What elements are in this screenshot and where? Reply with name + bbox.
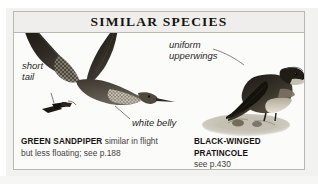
caption-black-winged-pratincole-line2: see p.430	[194, 159, 302, 170]
leader-line-white-belly	[115, 106, 130, 119]
leader-line-short-tail	[51, 93, 54, 103]
black-winged-pratincole-illustration	[202, 49, 304, 136]
page-margin-left	[0, 0, 6, 184]
green-sandpiper-illustration	[24, 33, 175, 119]
caption-area: GREEN SANDPIPER similar in flight but le…	[14, 136, 304, 170]
caption-black-winged-pratincole-species: BLACK-WINGED PRATINCOLE	[194, 137, 261, 158]
caption-black-winged-pratincole: BLACK-WINGED PRATINCOLE see p.430	[194, 136, 302, 170]
illustration-area: short tail white belly uniform upperwing…	[14, 33, 304, 138]
annotation-short-tail: short tail	[22, 60, 43, 82]
annotation-short-tail-line1: short	[22, 60, 43, 71]
short-tail-mark	[42, 101, 76, 113]
caption-green-sandpiper-note: similar in flight	[102, 136, 157, 146]
annotation-white-belly: white belly	[132, 117, 176, 128]
annotation-uniform-upperwings-line1: uniform	[169, 39, 201, 50]
page-title: SIMILAR SPECIES	[14, 14, 304, 30]
page-margin-bottom	[0, 176, 318, 184]
caption-green-sandpiper: GREEN SANDPIPER similar in flight but le…	[21, 136, 181, 158]
annotation-uniform-upperwings: uniform upperwings	[169, 39, 218, 61]
annotation-short-tail-line2: tail	[22, 71, 34, 82]
similar-species-header: SIMILAR SPECIES	[14, 12, 304, 33]
annotation-white-belly-line1: white belly	[132, 117, 176, 128]
caption-green-sandpiper-species: GREEN SANDPIPER	[21, 137, 102, 146]
annotation-uniform-upperwings-line2: upperwings	[169, 50, 218, 61]
similar-species-box: SIMILAR SPECIES	[13, 11, 305, 170]
page-background: SIMILAR SPECIES	[0, 0, 318, 184]
page-margin-top	[0, 0, 318, 8]
caption-green-sandpiper-line2: but less floating; see p.188	[21, 148, 181, 159]
